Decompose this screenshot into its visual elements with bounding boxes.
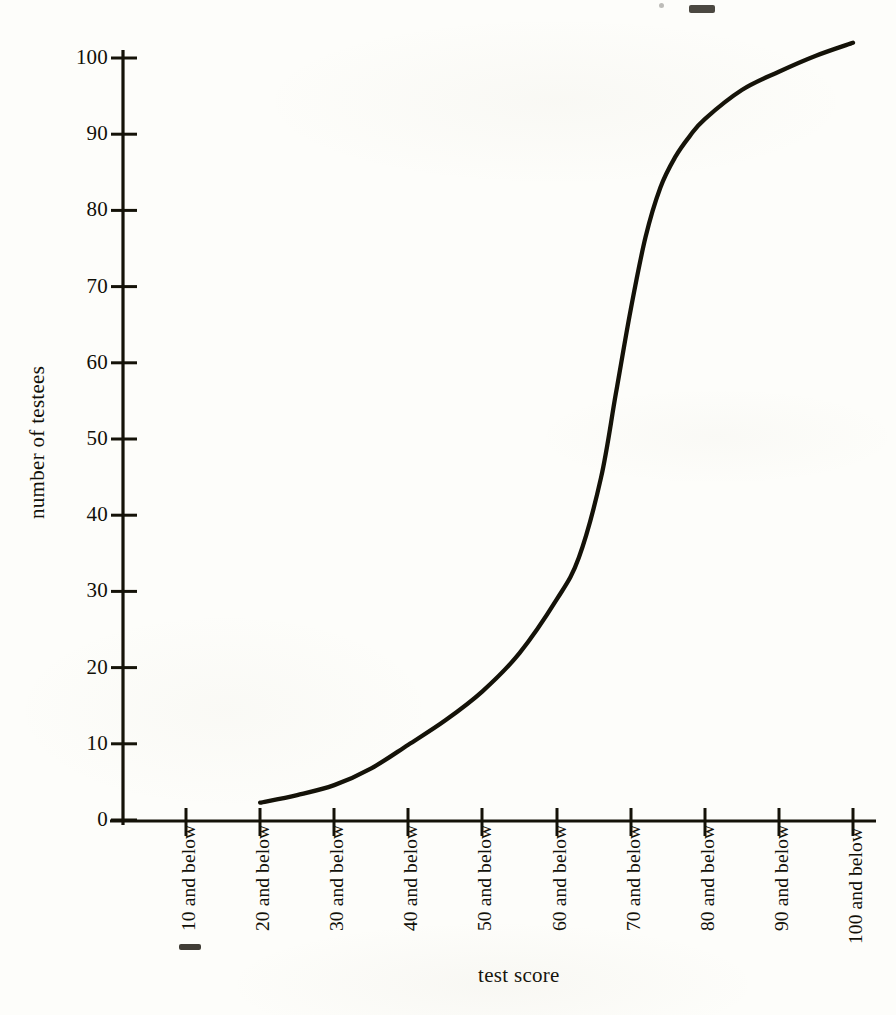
y-tick-label: 80: [56, 199, 108, 220]
chart-plot-area: [0, 0, 896, 1015]
x-tick-label: 40 and below: [401, 825, 421, 931]
y-tick-label: 90: [56, 123, 108, 144]
scan-artifact: [689, 5, 715, 13]
x-tick-label: 10 and below: [179, 825, 199, 931]
scanned-figure-page: 100 90 80 70 60 50 40 30 20 10 0 10 and …: [0, 0, 896, 1015]
y-axis-title: number of testees: [25, 366, 50, 519]
y-tick-label: 10: [56, 733, 108, 754]
x-tick-label: 50 and below: [475, 825, 495, 931]
x-tick-label: 80 and below: [698, 825, 718, 931]
y-tick-label: 50: [56, 428, 108, 449]
y-tick-label: 20: [56, 657, 108, 678]
scan-artifact: [659, 3, 664, 8]
y-tick-label: 30: [56, 580, 108, 601]
y-tick-label: 60: [56, 352, 108, 373]
x-tick-label: 20 and below: [253, 825, 273, 931]
x-tick-label: 30 and below: [327, 825, 347, 931]
y-tick-label: 100: [56, 47, 108, 68]
scan-artifact: [179, 944, 201, 950]
ogive-curve: [260, 43, 853, 803]
x-axis-title: test score: [478, 963, 560, 988]
x-tick-label: 100 and below: [846, 828, 866, 944]
x-tick-label: 60 and below: [550, 825, 570, 931]
x-tick-label: 70 and below: [624, 825, 644, 931]
y-tick-label: 0: [56, 809, 108, 830]
y-tick-label: 40: [56, 504, 108, 525]
y-tick-label: 70: [56, 276, 108, 297]
x-tick-label: 90 and below: [772, 825, 792, 931]
